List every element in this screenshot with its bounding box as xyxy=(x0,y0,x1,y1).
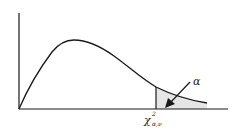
critical-value-sup: 2 xyxy=(151,110,156,117)
alpha-label: α xyxy=(193,75,201,88)
chi-square-diagram: α χ 2 α,ν xyxy=(0,0,240,133)
critical-value-label: χ xyxy=(143,114,152,127)
critical-value-sub: α,ν xyxy=(152,120,162,127)
